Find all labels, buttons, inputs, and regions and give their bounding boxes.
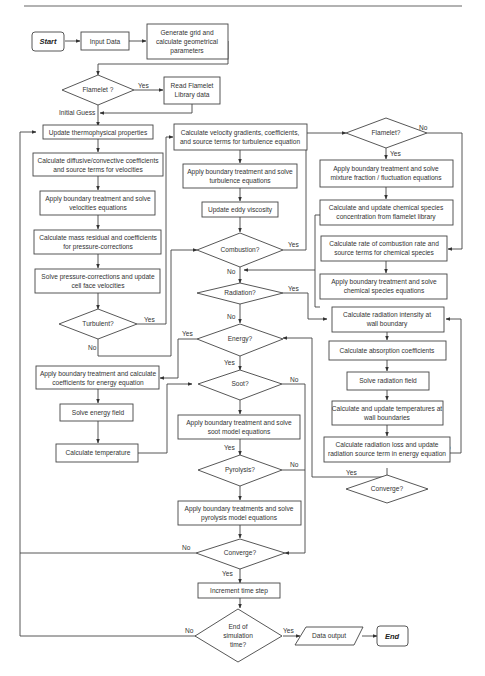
start-terminal: Start bbox=[32, 32, 64, 51]
svg-text:Input Data: Input Data bbox=[90, 38, 121, 46]
flamelet1-yes-label: Yes bbox=[138, 82, 149, 89]
svg-text:turbulence equations: turbulence equations bbox=[209, 177, 271, 185]
svg-text:Increment time step: Increment time step bbox=[210, 587, 268, 595]
radiation-yes-label: Yes bbox=[288, 285, 299, 292]
initial-guess-label: Initial Guess bbox=[59, 109, 96, 116]
svg-text:and source terms for velocitie: and source terms for velocities bbox=[53, 166, 143, 173]
svg-text:Apply boundary treatment and s: Apply boundary treatment and solve bbox=[186, 419, 292, 427]
calc-absorption-box: Calculate absorption coefficients bbox=[329, 341, 446, 360]
svg-text:Solve pressure-corrections and: Solve pressure-corrections and update bbox=[41, 273, 155, 281]
energy-yes-left-label: Yes bbox=[182, 330, 193, 337]
svg-text:source terms for chemical spec: source terms for chemical species bbox=[334, 249, 434, 257]
solve-pressure-box: Solve pressure-corrections and update ce… bbox=[35, 269, 160, 293]
svg-text:Converge?: Converge? bbox=[224, 549, 257, 557]
svg-text:Calculate mass residual and co: Calculate mass residual and coefficients bbox=[39, 234, 157, 241]
apply-bt-species-box: Apply boundary treatment and solve chemi… bbox=[320, 274, 447, 299]
converge-main-no-label: No bbox=[182, 544, 191, 551]
solve-radiation-box: Solve radiation field bbox=[347, 372, 429, 390]
svg-text:Apply boundary treatment and s: Apply boundary treatment and solve bbox=[333, 165, 439, 173]
svg-text:Flamelet?: Flamelet? bbox=[372, 129, 401, 136]
svg-text:mixture fraction / fluctuation: mixture fraction / fluctuation equations bbox=[330, 174, 442, 182]
svg-text:Calculate radiation intensity: Calculate radiation intensity at bbox=[343, 311, 431, 319]
soot-no-label: No bbox=[290, 376, 299, 383]
flamelet2-no-label: No bbox=[419, 124, 428, 131]
generate-grid-box: Generate grid and calculate geometrical … bbox=[147, 24, 228, 59]
calc-temperature-box: Calculate temperature bbox=[56, 444, 138, 462]
calc-mass-residual-box: Calculate mass residual and coefficients… bbox=[34, 230, 161, 254]
read-flamelet-box: Read Flamelet Library data bbox=[164, 77, 220, 104]
calc-diffusive-box: Calculate diffusive/convective coefficie… bbox=[33, 153, 163, 176]
end-simulation-decision: End of simulation time? bbox=[195, 609, 282, 662]
flamelet-decision-1: Flamelet ? bbox=[62, 75, 134, 105]
calc-velocity-gradients-box: Calculate velocity gradients, coefficien… bbox=[174, 124, 307, 150]
update-eddy-viscosity-box: Update eddy viscosity bbox=[202, 202, 278, 217]
apply-bt-energy-box: Apply boundary treatment and calculate c… bbox=[36, 366, 159, 389]
svg-text:Flamelet ?: Flamelet ? bbox=[83, 86, 114, 93]
combustion-yes-label: Yes bbox=[288, 241, 299, 248]
apply-bt-velocities-box: Apply boundary treatment and solve veloc… bbox=[40, 191, 155, 215]
increment-time-box: Increment time step bbox=[198, 583, 280, 598]
combustion-no-label: No bbox=[227, 268, 236, 275]
svg-text:Apply boundary treatment and c: Apply boundary treatment and calculate bbox=[40, 370, 157, 378]
svg-text:Library data: Library data bbox=[175, 91, 210, 99]
turbulent-yes-label: Yes bbox=[144, 316, 155, 323]
soot-yes-label: Yes bbox=[224, 444, 235, 451]
converge-rad-yes-label: Yes bbox=[346, 469, 357, 476]
svg-text:Update thermophysical properti: Update thermophysical properties bbox=[49, 129, 148, 137]
combustion-decision: Combustion? bbox=[197, 233, 283, 267]
flamelet2-yes-label: Yes bbox=[390, 150, 401, 157]
flowchart: Yes Yes No Yes No Yes No Yes Yes No Yes … bbox=[0, 0, 485, 676]
end-terminal: End bbox=[377, 626, 408, 646]
svg-text:Turbulent?: Turbulent? bbox=[82, 320, 114, 327]
svg-text:time?: time? bbox=[230, 641, 246, 648]
svg-text:Data output: Data output bbox=[312, 632, 346, 640]
rad-loss-line-1: Calculate radiation loss and update bbox=[335, 441, 438, 449]
pyrolysis-no-label: No bbox=[290, 461, 299, 468]
svg-text:Calculate rate of combustion r: Calculate rate of combustion rate and bbox=[329, 240, 439, 247]
svg-text:Calculate absorption coefficie: Calculate absorption coefficients bbox=[340, 347, 436, 355]
svg-text:Radiation?: Radiation? bbox=[224, 289, 256, 296]
apply-bt-pyrolysis-box: Apply boundary treatments and solve pyro… bbox=[178, 501, 301, 525]
calc-radiation-intensity-box: Calculate radiation intensity at wall bo… bbox=[332, 307, 444, 332]
flamelet-decision-2: Flamelet? bbox=[346, 118, 427, 148]
calc-wall-temperatures-box: Calculate and update temperatures at wal… bbox=[332, 401, 443, 425]
converge-main-decision: Converge? bbox=[196, 539, 285, 569]
svg-text:End: End bbox=[385, 632, 400, 641]
turbulent-decision: Turbulent? bbox=[59, 309, 137, 339]
svg-text:calculate geometrical: calculate geometrical bbox=[156, 38, 218, 46]
svg-text:parameters: parameters bbox=[170, 47, 204, 55]
svg-text:wall boundary: wall boundary bbox=[366, 320, 408, 328]
svg-text:Calculate diffusive/convective: Calculate diffusive/convective coefficie… bbox=[37, 157, 159, 164]
svg-text:Read Flamelet: Read Flamelet bbox=[171, 82, 214, 89]
energy-yes-down-label: Yes bbox=[224, 359, 235, 366]
data-output-parallelogram: Data output bbox=[295, 627, 363, 645]
energy-decision: Energy? bbox=[197, 324, 283, 356]
converge-rad-label: Converge? bbox=[371, 485, 404, 493]
svg-text:and source terms for turbulenc: and source terms for turbulence equation bbox=[180, 138, 301, 146]
svg-text:for pressure-corrections: for pressure-corrections bbox=[63, 243, 133, 251]
svg-text:End of: End of bbox=[228, 623, 247, 630]
svg-text:Start: Start bbox=[39, 37, 57, 46]
svg-text:coefficients for energy equati: coefficients for energy equation bbox=[52, 379, 144, 387]
svg-text:Apply boundary treatments and: Apply boundary treatments and solve bbox=[185, 505, 294, 513]
svg-text:Apply boundary treatment and s: Apply boundary treatment and solve bbox=[187, 168, 293, 176]
turbulent-no-label: No bbox=[88, 344, 97, 351]
apply-bt-soot-box: Apply boundary treatment and solve soot … bbox=[178, 415, 300, 439]
svg-text:Generate grid and: Generate grid and bbox=[160, 29, 213, 37]
svg-text:chemical species equations: chemical species equations bbox=[344, 287, 425, 295]
calc-combustion-rate-box: Calculate rate of combustion rate and so… bbox=[321, 236, 447, 261]
calc-radiation-loss-box: Calculate radiation loss and updateradia… bbox=[324, 437, 450, 462]
svg-text:Solve energy field: Solve energy field bbox=[72, 409, 125, 417]
update-thermo-box: Update thermophysical properties bbox=[43, 125, 153, 139]
svg-text:Calculate temperature: Calculate temperature bbox=[66, 449, 131, 457]
svg-text:Energy?: Energy? bbox=[228, 335, 253, 343]
svg-text:Update eddy viscosity: Update eddy viscosity bbox=[208, 206, 273, 214]
svg-text:wall boundaries: wall boundaries bbox=[363, 414, 411, 421]
svg-text:concentration from flamelet li: concentration from flamelet library bbox=[336, 213, 436, 221]
end-sim-no-label: No bbox=[185, 627, 194, 634]
svg-text:Calculate and update chemical: Calculate and update chemical species bbox=[329, 204, 444, 212]
svg-text:Apply boundary treatment and s: Apply boundary treatment and solve bbox=[45, 195, 151, 203]
radiation-no-label: No bbox=[227, 313, 236, 320]
svg-text:Calculate velocity gradients,: Calculate velocity gradients, coefficien… bbox=[181, 129, 300, 137]
calc-species-flamelet-box: Calculate and update chemical species co… bbox=[320, 200, 453, 225]
